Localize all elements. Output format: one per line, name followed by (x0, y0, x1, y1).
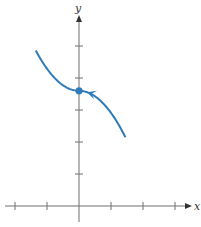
x-axis: x (5, 200, 201, 213)
y-axis-label: y (74, 2, 82, 15)
direction-arrow-icon (87, 91, 97, 100)
x-axis-label: x (194, 200, 201, 213)
x-axis-arrow-icon (185, 203, 192, 209)
y-axis-arrow-icon (76, 15, 82, 22)
curve-point (75, 87, 82, 94)
chart: x y (0, 0, 201, 227)
y-axis: y (74, 2, 83, 222)
